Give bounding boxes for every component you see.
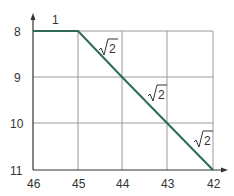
x-tick-45: 45 (72, 177, 86, 191)
y-tick-10: 10 (10, 117, 24, 131)
axes (33, 18, 224, 170)
segment-label-sqrt2-c: 2 (194, 131, 213, 148)
x-tick-44: 44 (116, 177, 130, 191)
y-tick-8: 8 (14, 25, 21, 39)
x-tick-43: 43 (161, 177, 175, 191)
data-line (33, 31, 213, 170)
grid (33, 31, 213, 170)
y-tick-9: 9 (14, 71, 21, 85)
y-axis-arrow (31, 13, 36, 20)
svg-text:2: 2 (204, 134, 211, 148)
x-tick-42: 42 (207, 177, 221, 191)
svg-text:2: 2 (109, 42, 116, 56)
segment-label-sqrt2-a: 2 (99, 39, 118, 56)
y-tick-11: 11 (10, 164, 23, 178)
segment-label-1: 1 (52, 13, 59, 27)
segment-label-sqrt2-b: 2 (148, 85, 167, 102)
x-axis-arrow (221, 168, 228, 173)
svg-text:2: 2 (158, 88, 165, 102)
x-tick-46: 46 (27, 177, 41, 191)
chart: 8 9 10 11 46 45 44 43 42 1 2 2 2 (0, 0, 234, 196)
